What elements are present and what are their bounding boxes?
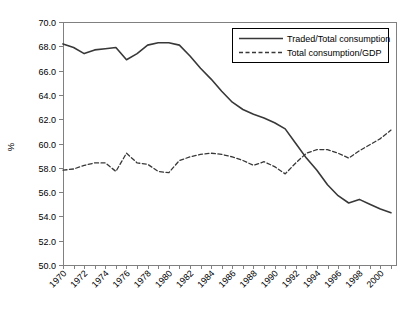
x-tick-label: 1976 [111, 268, 132, 289]
series-dashed-line [63, 130, 391, 174]
y-tick-label: 62.0 [38, 115, 56, 125]
x-tick-label: 1996 [322, 268, 343, 289]
x-axis: 1970197219741976197819801982198419861988… [47, 265, 391, 290]
x-tick-label: 1992 [280, 268, 301, 289]
legend-label-traded: Traded/Total consumption [287, 34, 390, 44]
y-tick-label: 70.0 [38, 18, 56, 28]
y-tick-label: 58.0 [38, 164, 56, 174]
line-chart: 70.068.066.064.062.060.058.056.054.052.0… [0, 0, 414, 312]
y-tick-label: 66.0 [38, 67, 56, 77]
x-tick-label: 1972 [68, 268, 89, 289]
y-tick-label: 50.0 [38, 261, 56, 271]
x-tick-label: 1970 [47, 268, 68, 289]
y-tick-label: 68.0 [38, 42, 56, 52]
x-tick-label: 1980 [153, 268, 174, 289]
y-tick-label: 56.0 [38, 188, 56, 198]
series-solid-line [63, 43, 391, 213]
x-tick-label: 1986 [216, 268, 237, 289]
y-axis: 70.068.066.064.062.060.058.056.054.052.0… [38, 18, 63, 271]
x-tick-label: 1974 [90, 268, 111, 289]
y-tick-label: 64.0 [38, 91, 56, 101]
x-tick-label: 1978 [132, 268, 153, 289]
legend-label-consumption-gdp: Total consumption/GDP [287, 48, 382, 58]
x-tick-label: 1998 [343, 268, 364, 289]
x-tick-label: 2000 [365, 268, 386, 289]
y-tick-label: 54.0 [38, 212, 56, 222]
y-tick-label: 52.0 [38, 237, 56, 247]
y-tick-label: 60.0 [38, 140, 56, 150]
x-tick-label: 1982 [174, 268, 195, 289]
legend: Traded/Total consumption Total consumpti… [233, 29, 391, 63]
y-axis-title: % [5, 142, 16, 151]
chart-container: 70.068.066.064.062.060.058.056.054.052.0… [0, 0, 414, 312]
x-tick-label: 1994 [301, 268, 322, 289]
x-tick-label: 1990 [259, 268, 280, 289]
x-tick-label: 1984 [195, 268, 216, 289]
x-tick-label: 1988 [238, 268, 259, 289]
